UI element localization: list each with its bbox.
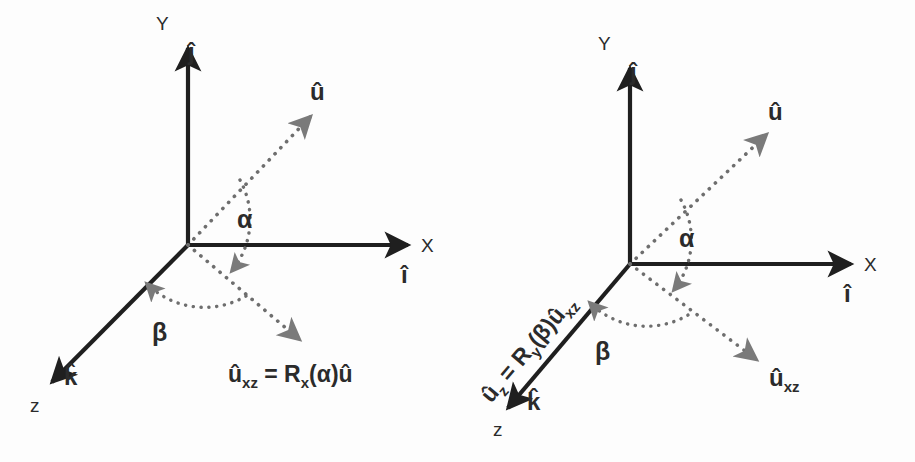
alpha-arc-group: α [231, 180, 253, 272]
u-xz-vector-label: ûxz [769, 364, 800, 395]
u-hat-vector-label: û [310, 78, 325, 105]
k-hat-label: k̂ [64, 363, 78, 390]
k-hat-label: k̂ [527, 388, 541, 415]
u-hat-vector [630, 134, 767, 264]
alpha-label: α [237, 205, 253, 233]
x-axis-label: X [421, 235, 434, 256]
formula-lhs-sub: xz [242, 374, 258, 391]
beta-label: β [595, 337, 610, 365]
beta-arc [146, 283, 246, 307]
formula-rhs: (α)û [309, 361, 353, 387]
beta-arc-group: β [146, 283, 246, 346]
z-axis-label: z [493, 419, 503, 440]
beta-arc [589, 302, 688, 326]
diagram-panel-right: Y ĵ X î z k̂ û [457, 0, 915, 462]
u-xz-vector-group [188, 245, 300, 340]
u-xz-vector [188, 245, 300, 340]
beta-arc-group: β [589, 302, 688, 365]
alpha-label: α [679, 224, 695, 252]
left-formula: ûxz = Rx(α)û [228, 361, 353, 391]
x-axis-group: X î [630, 254, 877, 307]
figure-root: Y ĵ X î z k̂ û [0, 0, 915, 462]
u-hat-vector-label: û [768, 98, 783, 125]
i-hat-label: î [400, 261, 409, 288]
j-hat-label: ĵ [628, 58, 638, 85]
y-axis-label: Y [156, 13, 169, 34]
i-hat-label: î [843, 280, 852, 307]
u-hat-vector-group: û [188, 78, 325, 245]
left-panel-svg: Y ĵ X î z k̂ û [0, 0, 458, 462]
y-axis-label: Y [598, 33, 611, 54]
left-formula-group: ûxz = Rx(α)û [228, 361, 353, 391]
z-axis-line [52, 245, 188, 382]
alpha-arc-group: α [673, 200, 695, 291]
u-xz-vector-group: ûxz [630, 264, 800, 395]
u-xz-label-sub: xz [784, 378, 800, 395]
y-axis-group: Y ĵ [598, 33, 638, 264]
x-axis-label: X [864, 254, 877, 275]
u-xz-label-base: û [769, 364, 784, 391]
formula-lhs-base: û [228, 361, 242, 387]
beta-label: β [152, 318, 167, 346]
u-xz-vector [630, 264, 757, 360]
formula-eq: = R [258, 361, 301, 387]
x-axis-group: X î [188, 235, 434, 288]
z-axis-label: z [30, 395, 40, 416]
j-hat-label: ĵ [186, 38, 196, 65]
u-hat-vector-group: û [630, 98, 783, 264]
diagram-panel-left: Y ĵ X î z k̂ û [0, 0, 458, 462]
right-panel-svg: Y ĵ X î z k̂ û [457, 0, 915, 462]
y-axis-group: Y ĵ [156, 13, 196, 245]
